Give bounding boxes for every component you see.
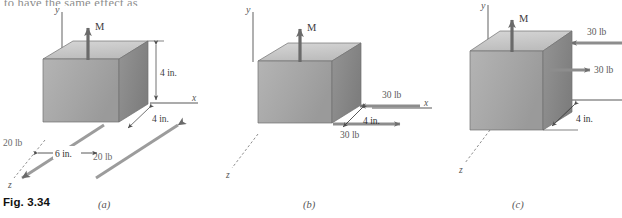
panel-a-force-left-label: 20 lb [3, 138, 23, 148]
panel-b-moment-label: M [307, 22, 317, 33]
panel-b-force-upper-label: 30 lb [382, 90, 402, 100]
panel-c-moment-label: M [519, 13, 529, 24]
panel-c: y z M 30 lb 30 lb 4 in. [458, 0, 622, 175]
panel-c-force-upper-label: 30 lb [587, 27, 607, 37]
panel-a-x-axis-label: x [191, 93, 197, 103]
panel-b-box-front-face [258, 61, 332, 123]
panel-c-force-lower-label: 30 lb [594, 65, 614, 75]
figure-canvas: y x z M 4 in. 4 in. 20 lb [0, 0, 622, 218]
panel-b-x-axis-label: x [423, 98, 429, 108]
panel-label-b: (b) [303, 199, 315, 210]
panel-b-y-axis-label: y [245, 4, 251, 15]
panel-b-force-lower-label: 30 lb [340, 130, 360, 140]
clipped-body-text: to have the same effect as [4, 0, 194, 6]
panel-a-z-axis-label: z [7, 180, 12, 190]
panel-a-separation-dimension-label: 6 in. [55, 149, 72, 159]
panel-c-z-axis-label: z [458, 165, 463, 175]
panel-c-box-front-face [470, 51, 543, 130]
figure-3-34: to have the same effect as [0, 0, 622, 218]
panel-b: y x z M 30 lb 30 lb 4 in. [225, 4, 432, 180]
panel-a-height-dimension-label: 4 in. [160, 68, 177, 78]
panel-c-separation-dimension-label: 4 in. [576, 114, 593, 124]
figure-caption: Fig. 3.34 [3, 196, 50, 208]
panel-label-a: (a) [98, 199, 110, 210]
panel-a-force-right-label: 20 lb [93, 152, 113, 162]
panel-b-separation-dimension-label: 4 in. [363, 116, 380, 126]
panel-a-depth-dimension-label: 4 in. [152, 114, 169, 124]
panel-c-z-axis [465, 130, 490, 163]
panel-a: y x z M 4 in. 4 in. 20 lb [3, 4, 198, 190]
panel-a-box-front-face [43, 59, 119, 122]
panel-b-z-axis [232, 134, 258, 168]
panel-label-c: (c) [512, 199, 524, 210]
panel-a-moment-label: M [95, 21, 105, 32]
panel-b-z-axis-label: z [225, 170, 230, 180]
panel-c-y-axis-label: y [480, 0, 486, 11]
